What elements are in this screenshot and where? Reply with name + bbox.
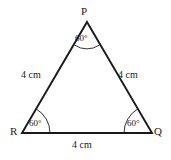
triangle-drawing xyxy=(0,0,171,160)
triangle-figure: P R Q 4 cm 4 cm 4 cm 60° 60° 60° xyxy=(0,0,171,160)
angle-label-r: 60° xyxy=(29,119,42,128)
side-label-rq: 4 cm xyxy=(72,140,92,150)
vertex-label-q: Q xyxy=(154,126,162,137)
angle-arc-p xyxy=(75,45,100,49)
side-label-pq: 4 cm xyxy=(118,70,138,80)
angle-label-p: 60° xyxy=(75,34,88,43)
vertex-label-p: P xyxy=(81,6,87,17)
side-label-pr: 4 cm xyxy=(21,70,41,80)
vertex-label-r: R xyxy=(10,126,17,137)
angle-label-q: 60° xyxy=(127,119,140,128)
